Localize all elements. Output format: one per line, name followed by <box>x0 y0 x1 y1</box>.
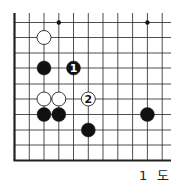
black-stone <box>81 123 95 137</box>
black-stone <box>52 108 66 122</box>
black-stone <box>37 61 51 75</box>
white-stone-2: 2 <box>81 92 95 106</box>
black-stone <box>140 108 154 122</box>
star-point <box>57 20 61 24</box>
move-number: 1 <box>70 62 78 75</box>
white-stone <box>37 92 51 106</box>
black-stone-1: 1 <box>67 61 81 75</box>
go-board: 12 <box>0 0 181 181</box>
move-number: 2 <box>84 93 92 106</box>
white-stone <box>52 92 66 106</box>
diagram-caption: 1 도 <box>139 165 172 181</box>
star-point <box>145 20 149 24</box>
black-stone <box>37 108 51 122</box>
white-stone <box>37 31 51 45</box>
